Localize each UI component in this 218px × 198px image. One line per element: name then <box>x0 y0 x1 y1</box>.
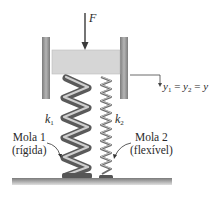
mola-1-label: Mola 1 (rígida) <box>12 131 46 157</box>
mola-2-label: Mola 2 (flexível) <box>130 131 173 157</box>
force-label: F <box>89 12 96 24</box>
mola-2-name: Mola 2 <box>130 131 173 144</box>
k1-label: k1 <box>45 113 54 127</box>
equals-sign-1: = <box>171 80 183 92</box>
k1-subscript: 1 <box>50 119 54 127</box>
k2-subscript: 2 <box>120 119 124 127</box>
mola-1-description: (rígida) <box>12 144 46 157</box>
ground <box>12 178 172 185</box>
equals-sign-2: = <box>192 80 204 92</box>
left-guide-wall <box>42 37 50 99</box>
force-arrow-icon <box>82 13 89 50</box>
spring-system-diagram <box>0 0 218 198</box>
pointer-arrow-mola-1 <box>47 143 62 158</box>
mola-1-name: Mola 1 <box>12 131 46 144</box>
flexible-spring-icon <box>99 77 113 180</box>
right-guide-wall <box>120 37 128 99</box>
displacement-indicator-icon <box>130 75 162 87</box>
displacement-equation: y1 = y2 = y <box>163 81 208 94</box>
mola-2-description: (flexível) <box>130 144 173 157</box>
y-symbol: y <box>203 80 208 92</box>
rigid-block <box>52 50 120 74</box>
pointer-arrow-mola-2 <box>113 143 131 159</box>
k2-label: k2 <box>115 113 124 127</box>
stiff-spring-icon <box>62 77 92 179</box>
